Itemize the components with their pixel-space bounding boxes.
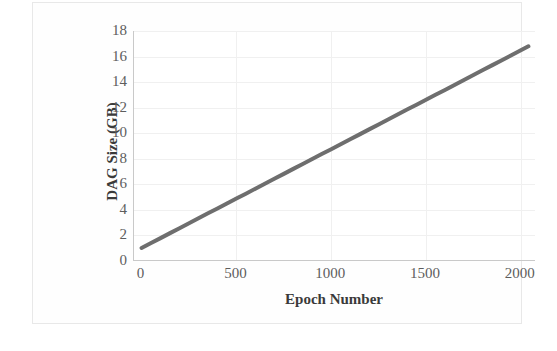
x-axis-tick-label: 0 [111,266,171,281]
y-axis-tick-label: 16 [91,49,127,64]
x-axis-tick-label: 1500 [395,266,455,281]
x-axis-title: Epoch Number [133,291,535,308]
y-axis-tick-labels: 024681012141618 [89,31,127,261]
y-axis-tick-label: 2 [91,227,127,242]
chart-frame: DAG Size (GB) 024681012141618 0500100015… [32,2,522,324]
series-path [142,46,529,248]
data-series-line [134,31,536,261]
x-axis-tick-label: 500 [205,266,265,281]
y-axis-tick-label: 10 [91,125,127,140]
y-axis-tick-label: 6 [91,176,127,191]
y-axis-tick-label: 8 [91,151,127,166]
x-axis-tick-label: 1000 [300,266,360,281]
x-axis-tick-label: 2000 [490,266,550,281]
y-axis-tick-label: 4 [91,202,127,217]
y-axis-tick-label: 14 [91,74,127,89]
y-axis-tick-label: 18 [91,23,127,38]
x-axis-tick-labels: 0500100015002000 [133,266,535,286]
y-axis-tick-label: 12 [91,100,127,115]
plot-area [133,31,535,261]
